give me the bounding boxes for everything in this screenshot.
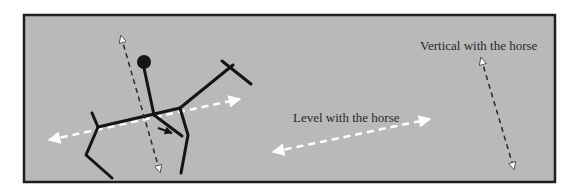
level-label: Level with the horse [293,110,400,125]
vertical-label: Vertical with the horse [420,38,538,53]
horse-rider-diagram: Level with the horse Vertical with the h… [0,0,577,191]
